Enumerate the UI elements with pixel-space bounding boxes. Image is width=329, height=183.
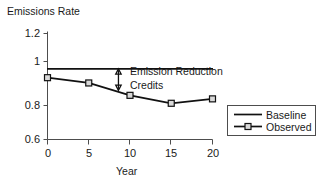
y-axis-title: Emissions Rate	[7, 6, 80, 17]
x-tick-label-10: 10	[119, 148, 141, 159]
x-tick-label-5: 5	[78, 148, 100, 159]
legend-label-observed: Observed	[266, 122, 312, 133]
legend-swatch-observed-marker	[245, 124, 251, 130]
annotation-text-line-2: Credits	[130, 80, 163, 91]
y-tick-label-1.2: 1.2	[14, 28, 40, 39]
data-point-marker	[210, 96, 216, 102]
x-tick-label-15: 15	[160, 148, 182, 159]
annotation-text-line-1: Emission Reduction	[130, 66, 223, 77]
emission-reduction-credits-arrow	[116, 69, 121, 91]
y-tick-label-0.6: 0.6	[14, 134, 40, 145]
data-point-marker	[86, 80, 92, 86]
y-tick-label-0.8: 0.8	[14, 100, 40, 111]
emissions-rate-chart-figure: Emissions Rate Year 1.2 1 0.8 0.6 0 5 10…	[0, 0, 329, 183]
x-tick-label-0: 0	[37, 148, 59, 159]
data-point-marker	[45, 75, 51, 81]
x-tick-label-20: 20	[202, 148, 224, 159]
x-axis-title: Year	[116, 166, 137, 177]
axis-group	[44, 32, 213, 145]
data-point-marker	[127, 92, 133, 98]
data-point-marker	[168, 100, 174, 106]
legend-label-baseline: Baseline	[266, 110, 306, 121]
y-tick-label-1.0: 1	[14, 56, 40, 67]
